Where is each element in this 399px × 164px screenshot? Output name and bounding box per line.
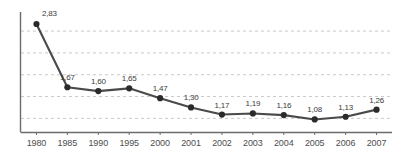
data-point-label: 1,13	[338, 103, 353, 112]
data-point-marker	[250, 110, 256, 116]
data-point-label: 2,83	[42, 9, 57, 18]
data-point-label: 1,60	[91, 77, 106, 86]
x-axis-tick-label: 1990	[88, 138, 108, 148]
axis-lines	[21, 12, 393, 133]
x-axis-tick-label: 2002	[212, 138, 232, 148]
data-point-marker	[33, 21, 39, 27]
data-point-marker	[343, 114, 349, 120]
data-point-marker	[157, 95, 163, 101]
data-point-marker	[95, 88, 101, 94]
x-axis-tick-label: 1995	[119, 138, 139, 148]
gridlines	[21, 31, 392, 118]
data-point-label: 1,67	[60, 73, 75, 82]
data-point-marker	[373, 107, 379, 113]
data-point-marker	[126, 85, 132, 91]
x-axis-tick-label: 1980	[27, 138, 47, 148]
data-point-label: 1,26	[369, 96, 384, 105]
x-axis-tick-label: 2004	[274, 138, 294, 148]
data-markers	[33, 21, 379, 123]
data-point-marker	[188, 104, 194, 110]
data-point-label: 1,65	[122, 74, 137, 83]
data-point-label: 1,19	[245, 99, 260, 108]
x-axis-tick-label: 2007	[367, 138, 387, 148]
line-chart: 2,831,671,601,651,471,301,171,191,161,08…	[0, 0, 399, 164]
data-point-label: 1,17	[215, 101, 230, 110]
data-point-label: 1,08	[307, 105, 322, 114]
x-axis-tick-label: 2005	[305, 138, 325, 148]
data-point-marker	[64, 84, 70, 90]
data-point-marker	[281, 112, 287, 118]
x-axis-tick-label: 2000	[150, 138, 170, 148]
data-point-marker	[312, 116, 318, 122]
x-axis-tick-label: 2001	[181, 138, 201, 148]
x-axis-tick-label: 1985	[58, 138, 78, 148]
x-axis-tick-label: 2006	[336, 138, 356, 148]
x-axis-tick-label: 2003	[243, 138, 263, 148]
data-point-label: 1,16	[276, 101, 291, 110]
data-point-label: 1,47	[153, 84, 168, 93]
data-point-label: 1,30	[184, 93, 199, 102]
data-line	[36, 24, 376, 119]
data-point-marker	[219, 111, 225, 117]
